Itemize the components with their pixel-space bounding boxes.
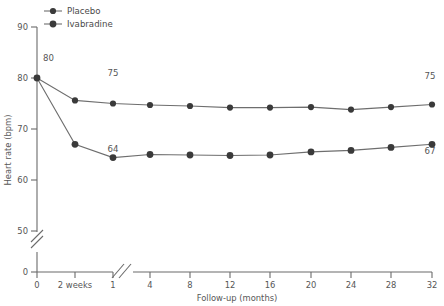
legend: Placebo Ivabradine <box>44 6 113 29</box>
x-tick-label-20: 20 <box>306 280 317 290</box>
legend-marker-placebo <box>50 8 56 14</box>
x-tick-label-28: 28 <box>386 280 397 290</box>
legend-label-ivabradine: Ivabradine <box>67 19 113 29</box>
data-point <box>348 147 355 154</box>
data-point <box>348 107 354 113</box>
data-point <box>227 105 233 111</box>
data-point <box>34 75 41 82</box>
x-tick-label-1: 1 <box>110 280 115 290</box>
y-axis-title: Heart rate (bpm) <box>3 115 13 186</box>
ivabradine-line <box>37 78 432 158</box>
annotation-ivabradine-month32: 67 <box>425 146 436 156</box>
data-point <box>110 100 116 106</box>
x-axis-break-icon <box>112 264 131 278</box>
annotation-placebo-month32: 75 <box>425 71 436 81</box>
data-point <box>388 104 394 110</box>
legend-label-placebo: Placebo <box>67 6 101 16</box>
annotation-baseline-80: 80 <box>43 53 54 63</box>
y-axis-break-icon <box>31 230 43 248</box>
heart-rate-line-chart: 90 80 70 60 50 0 Heart rate (bpm) 0 <box>0 0 444 306</box>
y-tick-label-70: 70 <box>17 124 28 134</box>
data-annotations: 80 75 75 64 67 <box>43 53 435 156</box>
data-point <box>72 141 79 148</box>
data-point <box>110 154 117 161</box>
data-point <box>308 104 314 110</box>
data-point <box>227 152 234 159</box>
x-axis: 0 2 weeks 1 4 8 12 16 20 24 28 32 Follow… <box>34 264 437 303</box>
annotation-ivabradine-month1: 64 <box>108 144 119 154</box>
x-tick-label-24: 24 <box>346 280 357 290</box>
legend-item-ivabradine[interactable]: Ivabradine <box>44 19 113 29</box>
data-point <box>187 103 193 109</box>
data-point <box>308 149 315 156</box>
data-point <box>267 152 274 159</box>
data-point <box>187 152 194 159</box>
legend-item-placebo[interactable]: Placebo <box>44 6 101 16</box>
x-tick-label-2weeks: 2 weeks <box>58 280 92 290</box>
placebo-line <box>37 78 432 110</box>
data-point <box>147 151 154 158</box>
series-placebo <box>34 75 435 113</box>
series-ivabradine <box>34 75 436 161</box>
y-tick-label-50: 50 <box>17 226 28 236</box>
data-point <box>429 101 435 107</box>
y-tick-label-90: 90 <box>17 22 28 32</box>
y-tick-label-0: 0 <box>23 267 28 277</box>
x-tick-label-4: 4 <box>147 280 152 290</box>
x-axis-title: Follow-up (months) <box>197 293 278 303</box>
data-point <box>267 105 273 111</box>
annotation-placebo-month1: 75 <box>108 68 119 78</box>
data-point <box>72 97 78 103</box>
y-tick-label-80: 80 <box>17 73 28 83</box>
y-axis: 90 80 70 60 50 0 Heart rate (bpm) <box>3 22 43 277</box>
x-tick-label-12: 12 <box>225 280 236 290</box>
x-tick-label-16: 16 <box>265 280 276 290</box>
data-point <box>147 102 153 108</box>
legend-marker-ivabradine <box>50 21 57 28</box>
x-tick-label-0: 0 <box>34 280 39 290</box>
data-point <box>388 144 395 151</box>
placebo-markers <box>34 75 435 113</box>
x-tick-label-32: 32 <box>427 280 438 290</box>
y-tick-label-60: 60 <box>17 175 28 185</box>
x-tick-label-8: 8 <box>187 280 192 290</box>
